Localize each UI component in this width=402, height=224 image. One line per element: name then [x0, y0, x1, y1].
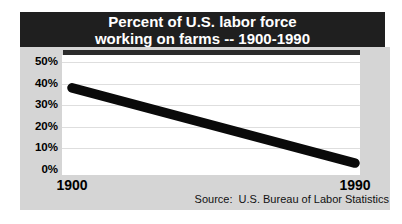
plot-area — [62, 55, 360, 175]
chart-title-banner: Percent of U.S. labor force working on f… — [20, 12, 385, 47]
source-note: Source: U.S. Bureau of Labor Statistics — [195, 193, 389, 205]
chart-title-line2: working on farms -- 1900-1990 — [20, 31, 385, 48]
y-tick-label: 50% — [18, 55, 58, 69]
x-tick-label: 1990 — [325, 177, 385, 192]
y-tick-label: 20% — [18, 120, 58, 134]
chart-title-line1: Percent of U.S. labor force — [20, 14, 385, 31]
y-tick-label: 30% — [18, 98, 58, 112]
data-line-svg — [62, 55, 360, 175]
y-tick-label: 10% — [18, 141, 58, 155]
x-tick-label: 1900 — [42, 177, 102, 192]
slide-canvas: Percent of U.S. labor force working on f… — [0, 0, 402, 224]
y-tick-label: 40% — [18, 77, 58, 91]
y-tick-label: 0% — [18, 163, 58, 177]
data-line — [72, 88, 355, 163]
